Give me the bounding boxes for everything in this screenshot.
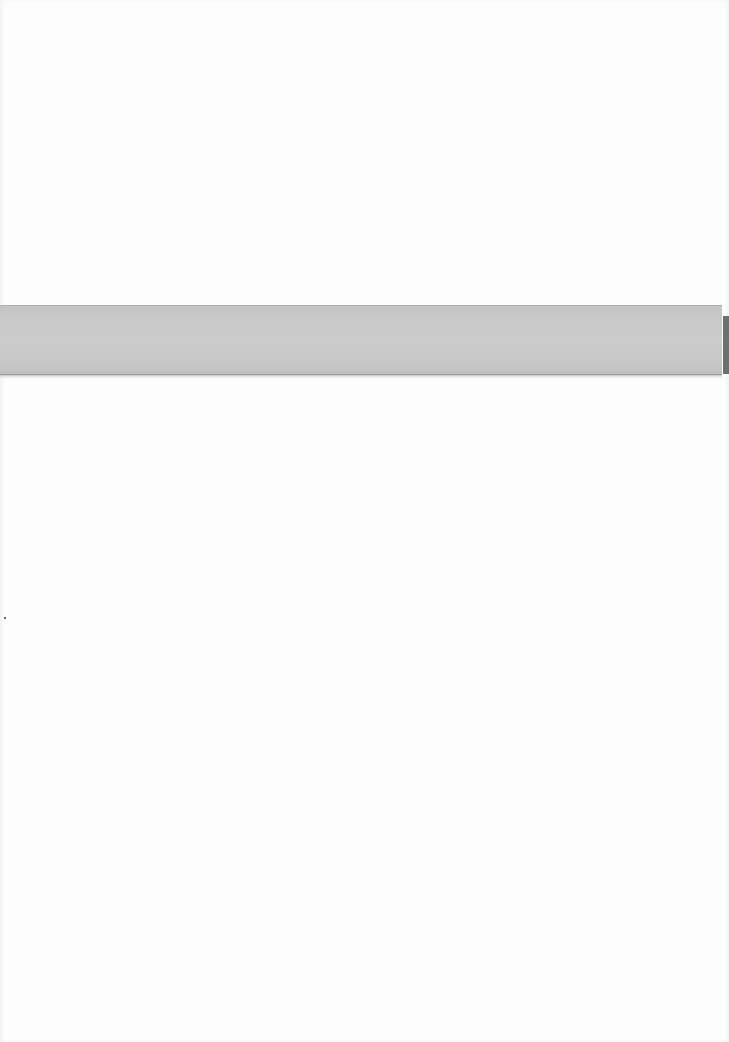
scan-speck xyxy=(4,617,6,619)
band-shadow xyxy=(0,375,722,379)
scanned-page xyxy=(0,0,729,1042)
gray-band xyxy=(0,305,722,376)
